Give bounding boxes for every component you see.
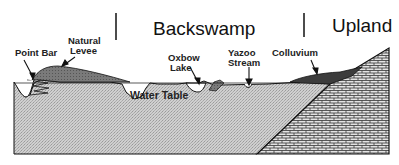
- label-point-bar: Point Bar: [15, 47, 58, 58]
- label-water-table: Water Table: [130, 89, 189, 101]
- label-colluvium: Colluvium: [272, 47, 318, 58]
- region-label-backswamp: Backswamp: [153, 18, 255, 39]
- natural-levee: [32, 66, 130, 82]
- region-label-upland: Upland: [332, 15, 392, 36]
- label-yazoo-stream-2: Stream: [228, 57, 260, 68]
- floodplain-cross-section-diagram: Backswamp Upland Point Bar Natural Levee…: [0, 0, 399, 165]
- label-natural-levee-2: Levee: [70, 45, 97, 56]
- label-oxbow-lake-2: Lake: [170, 62, 192, 73]
